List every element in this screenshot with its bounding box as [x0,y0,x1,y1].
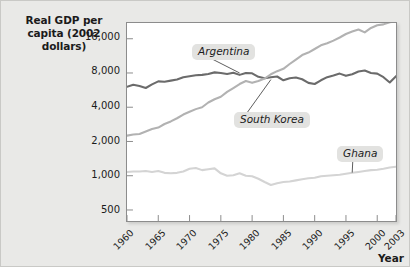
series-label-ghana: Ghana [337,146,383,162]
x-tick-label: 1985 [264,227,293,256]
y-tick-label: 2,000 [24,135,120,146]
y-tick-label: 4,000 [24,100,120,111]
x-tick-label: 1990 [296,227,325,256]
chart-figure: Real GDP per capita (2002 dollars) 16,00… [0,0,410,267]
y-tick-label: 1,000 [24,169,120,180]
x-tick-label: 1980 [233,227,262,256]
y-tick-marks [127,39,133,210]
series-label-argentina: Argentina [192,44,255,60]
series-label-south-korea: South Korea [234,112,310,128]
x-tick-label: 1975 [201,227,230,256]
leader-line [246,80,271,114]
x-tick-label: 1965 [138,227,167,256]
x-tick-label: 1970 [170,227,199,256]
y-tick-label: 16,000 [24,31,120,42]
x-axis-title: Year [378,252,404,264]
leader-line [211,59,239,73]
x-tick-marks [127,215,396,221]
x-tick-label: 1960 [107,227,136,256]
y-tick-label: 500 [24,204,120,215]
x-tick-label: 1995 [327,227,356,256]
y-tick-label: 8,000 [24,65,120,76]
series-line-ghana [127,167,396,185]
